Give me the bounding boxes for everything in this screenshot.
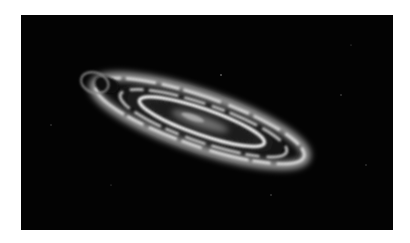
galaxy-illustration: [21, 15, 393, 230]
galaxy-image: [21, 15, 393, 230]
